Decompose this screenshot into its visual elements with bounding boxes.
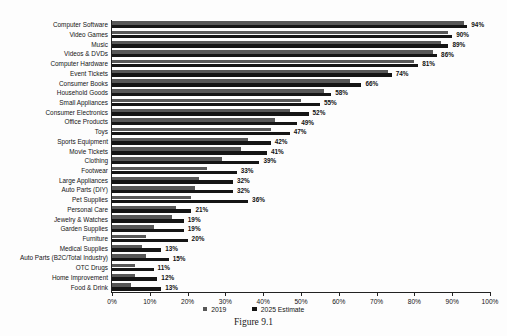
bar-2025-estimate: [112, 103, 320, 106]
bar-2025-estimate: [112, 25, 467, 28]
bar-2025-estimate: [112, 248, 161, 251]
figure-caption: Figure 9.1: [0, 317, 507, 327]
x-axis-tick: [339, 292, 340, 296]
value-label: 19%: [188, 225, 201, 232]
bar-2025-estimate: [112, 190, 233, 193]
value-label: 49%: [301, 119, 314, 126]
bar-row: Consumer Electronics52%: [112, 107, 490, 117]
bar-row: Pet Supplies36%: [112, 195, 490, 205]
category-label: Consumer Electronics: [1, 109, 108, 116]
bar-2025-estimate: [112, 44, 448, 47]
category-label: Jewelry & Watches: [1, 216, 108, 223]
category-label: Garden Supplies: [1, 225, 108, 232]
bar-chart-plot-area: Computer Software94%Video Games90%Music8…: [111, 20, 490, 293]
value-label: 55%: [324, 99, 337, 106]
bar-2025-estimate: [112, 209, 191, 212]
bar-2025-estimate: [112, 268, 154, 271]
bar-2025-estimate: [112, 112, 309, 115]
value-label: 90%: [456, 31, 469, 38]
bar-row: Household Goods58%: [112, 88, 490, 98]
x-axis-tick: [452, 292, 453, 296]
value-label: 20%: [192, 235, 205, 242]
bar-row: Toys47%: [112, 127, 490, 137]
value-label: 58%: [335, 89, 348, 96]
bar-row: Consumer Books66%: [112, 78, 490, 88]
bar-row: Sports Equipment42%: [112, 137, 490, 147]
value-label: 12%: [161, 274, 174, 281]
category-label: Footwear: [1, 167, 108, 174]
bar-row: Videos & DVDs86%: [112, 49, 490, 59]
bar-2025-estimate: [112, 73, 392, 76]
category-label: Consumer Books: [1, 80, 108, 87]
bar-row: OTC Drugs11%: [112, 263, 490, 273]
value-label: 86%: [441, 51, 454, 58]
x-axis-tick: [112, 292, 113, 296]
value-label: 19%: [188, 216, 201, 223]
bar-row: Auto Parts (B2C/Total Industry)15%: [112, 253, 490, 263]
value-label: 81%: [422, 60, 435, 67]
value-label: 89%: [452, 41, 465, 48]
value-label: 52%: [313, 109, 326, 116]
bar-row: Office Products49%: [112, 117, 490, 127]
bar-row: Auto Parts (DIY)32%: [112, 185, 490, 195]
bar-2025-estimate: [112, 287, 161, 290]
value-label: 13%: [165, 284, 178, 291]
category-label: Household Goods: [1, 89, 108, 96]
bar-row: Food & Drink13%: [112, 282, 490, 292]
category-label: Clothing: [1, 157, 108, 164]
legend-item: 2019: [203, 306, 227, 313]
value-label: 41%: [271, 148, 284, 155]
legend-item: 2025 Estimate: [252, 306, 304, 313]
category-label: Small Appliances: [1, 99, 108, 106]
value-label: 33%: [241, 167, 254, 174]
value-label: 32%: [237, 177, 250, 184]
category-label: Event Tickets: [1, 70, 108, 77]
bar-2025-estimate: [112, 132, 290, 135]
bar-row: Event Tickets74%: [112, 69, 490, 79]
bar-row: Medical Supplies13%: [112, 243, 490, 253]
bar-row: Jewelry & Watches19%: [112, 214, 490, 224]
x-axis-tick: [263, 292, 264, 296]
bar-row: Video Games90%: [112, 30, 490, 40]
category-label: Personal Care: [1, 206, 108, 213]
bar-2025-estimate: [112, 180, 233, 183]
x-axis-tick: [490, 292, 491, 296]
legend-marker-icon: [203, 307, 208, 312]
bar-row: Computer Software94%: [112, 20, 490, 30]
bar-2025-estimate: [112, 64, 418, 67]
category-label: Furniture: [1, 235, 108, 242]
bar-2025-estimate: [112, 200, 248, 203]
value-label: 66%: [365, 80, 378, 87]
category-label: Videos & DVDs: [1, 50, 108, 57]
category-label: Large Appliances: [1, 177, 108, 184]
bar-2025-estimate: [112, 258, 169, 261]
value-label: 13%: [165, 245, 178, 252]
value-label: 94%: [471, 21, 484, 28]
category-label: Home Improvement: [1, 274, 108, 281]
category-label: Office Products: [1, 118, 108, 125]
bar-2025-estimate: [112, 93, 331, 96]
bar-2025-estimate: [112, 54, 437, 57]
legend-marker-icon: [252, 307, 257, 312]
category-label: Auto Parts (B2C/Total Industry): [1, 254, 108, 261]
value-label: 11%: [158, 264, 170, 271]
category-label: Pet Supplies: [1, 196, 108, 203]
bar-2025-estimate: [112, 239, 188, 242]
bar-2025-estimate: [112, 151, 267, 154]
category-label: Video Games: [1, 31, 108, 38]
figure-9-1-chart-page: Computer Software94%Video Games90%Music8…: [0, 0, 507, 336]
bar-row: Garden Supplies19%: [112, 224, 490, 234]
category-label: OTC Drugs: [1, 264, 108, 271]
x-axis-tick: [301, 292, 302, 296]
category-label: Food & Drink: [1, 284, 108, 291]
bar-row: Movie Tickets41%: [112, 146, 490, 156]
bar-2025-estimate: [112, 277, 157, 280]
category-label: Medical Supplies: [1, 245, 108, 252]
bar-2025-estimate: [112, 229, 184, 232]
chart-legend: 20192025 Estimate: [0, 304, 507, 314]
category-label: Toys: [1, 128, 108, 135]
bar-row: Personal Care21%: [112, 205, 490, 215]
bar-row: Clothing39%: [112, 156, 490, 166]
category-label: Movie Tickets: [1, 148, 108, 155]
bar-2025-estimate: [112, 141, 271, 144]
